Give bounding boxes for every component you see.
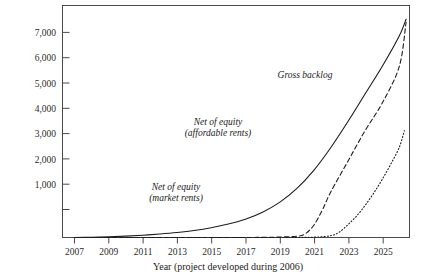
x-axis-ticks xyxy=(75,238,384,244)
annotation-line-1: Net of equity xyxy=(151,182,201,192)
annotation-line-2: (market rents) xyxy=(149,193,203,204)
x-tick-label: 2021 xyxy=(305,247,324,257)
x-tick-label: 2011 xyxy=(134,247,153,257)
chart-figure: 7,000 6,000 5,000 4,000 3,000 2,000 1,00… xyxy=(0,0,422,274)
y-tick-label: 5,000 xyxy=(35,79,57,89)
y-tick-label: 3,000 xyxy=(35,129,57,139)
x-axis-tick-labels: 2007 2009 2011 2013 2015 2017 2019 2021 … xyxy=(65,247,393,257)
y-tick-label: 6,000 xyxy=(35,53,57,63)
y-tick-label: 7,000 xyxy=(35,28,57,38)
annotation-net-of-equity-market: Net of equity (market rents) xyxy=(149,182,203,204)
x-tick-label: 2015 xyxy=(202,247,221,257)
annotation-line-1: Net of equity xyxy=(193,117,243,127)
x-tick-label: 2019 xyxy=(271,247,290,257)
backlog-line-chart: 7,000 6,000 5,000 4,000 3,000 2,000 1,00… xyxy=(0,0,422,274)
y-axis-ticks xyxy=(63,32,70,209)
y-tick-label: 4,000 xyxy=(35,104,57,114)
x-tick-label: 2025 xyxy=(374,247,393,257)
x-tick-label: 2013 xyxy=(168,247,187,257)
annotation-gross-backlog: Gross backlog xyxy=(278,70,333,80)
y-tick-label: 1,000 xyxy=(35,180,57,190)
y-axis-tick-labels: 7,000 6,000 5,000 4,000 3,000 2,000 1,00… xyxy=(35,28,57,190)
annotation-line-2: (affordable rents) xyxy=(185,128,252,139)
x-tick-label: 2017 xyxy=(237,247,256,257)
annotation-net-of-equity-affordable: Net of equity (affordable rents) xyxy=(185,117,252,139)
x-tick-label: 2009 xyxy=(99,247,118,257)
y-tick-label: 2,000 xyxy=(35,155,57,165)
x-tick-label: 2023 xyxy=(339,247,358,257)
x-axis-title: Year (project developed during 2006) xyxy=(153,261,303,273)
x-tick-label: 2007 xyxy=(65,247,84,257)
